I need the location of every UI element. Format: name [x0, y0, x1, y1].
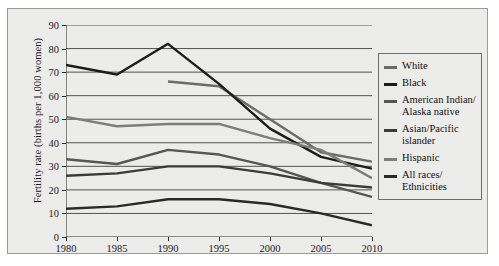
x-tick-mark	[168, 237, 169, 241]
y-tick-label: 70	[33, 67, 59, 78]
x-tick-label: 1985	[92, 243, 142, 254]
y-tick-label: 20	[33, 184, 59, 195]
legend-item-label: White	[402, 60, 428, 72]
legend-item[interactable]: American Indian/ Alaska native	[384, 94, 477, 118]
y-tick-mark	[62, 96, 66, 97]
x-tick-mark	[321, 237, 322, 241]
fertility-rate-chart-figure: Fertility rate (births per 1,000 women) …	[0, 0, 499, 266]
y-tick-mark	[62, 119, 66, 120]
legend-swatch-icon	[384, 66, 397, 69]
series-line-0	[168, 82, 372, 162]
y-tick-label: 40	[33, 137, 59, 148]
x-tick-label: 2010	[347, 243, 397, 254]
legend-item[interactable]: All races/ Ethnicities	[384, 169, 477, 193]
legend-item[interactable]: Black	[384, 77, 477, 89]
chart-legend: WhiteBlackAmerican Indian/ Alaska native…	[378, 53, 482, 200]
legend-swatch-icon	[384, 100, 397, 103]
x-tick-label: 1995	[194, 243, 244, 254]
series-line-4	[66, 117, 372, 178]
legend-item-label: American Indian/ Alaska native	[402, 94, 476, 118]
legend-item[interactable]: Asian/Pacific islander	[384, 123, 477, 147]
plot-area	[66, 25, 372, 237]
y-tick-mark	[62, 25, 66, 26]
series-line-5	[66, 199, 372, 225]
y-tick-mark	[62, 166, 66, 167]
x-tick-mark	[66, 237, 67, 241]
x-tick-mark	[219, 237, 220, 241]
y-tick-label: 60	[33, 90, 59, 101]
x-tick-label: 2000	[245, 243, 295, 254]
y-tick-label: 30	[33, 161, 59, 172]
y-tick-mark	[62, 49, 66, 50]
series-line-3	[66, 166, 372, 187]
series-line-1	[66, 44, 372, 169]
y-tick-label: 10	[33, 208, 59, 219]
x-tick-label: 1990	[143, 243, 193, 254]
x-tick-label: 1980	[41, 243, 91, 254]
y-tick-mark	[62, 213, 66, 214]
legend-swatch-icon	[384, 158, 397, 161]
x-tick-mark	[117, 237, 118, 241]
y-tick-label: 0	[33, 232, 59, 243]
legend-swatch-icon	[384, 175, 397, 178]
y-tick-mark	[62, 143, 66, 144]
y-tick-label: 50	[33, 114, 59, 125]
legend-item[interactable]: White	[384, 60, 477, 72]
y-tick-label: 90	[33, 20, 59, 31]
legend-item[interactable]: Hispanic	[384, 152, 477, 164]
legend-item-label: Hispanic	[402, 152, 439, 164]
x-tick-mark	[270, 237, 271, 241]
x-tick-label: 2005	[296, 243, 346, 254]
y-tick-label: 80	[33, 43, 59, 54]
chart-svg	[66, 25, 372, 237]
legend-item-label: Asian/Pacific islander	[402, 123, 459, 147]
y-tick-mark	[62, 190, 66, 191]
legend-swatch-icon	[384, 83, 397, 86]
legend-item-label: Black	[402, 77, 427, 89]
legend-swatch-icon	[384, 129, 397, 132]
y-tick-mark	[62, 72, 66, 73]
x-tick-mark	[372, 237, 373, 241]
legend-item-label: All races/ Ethnicities	[402, 169, 447, 193]
